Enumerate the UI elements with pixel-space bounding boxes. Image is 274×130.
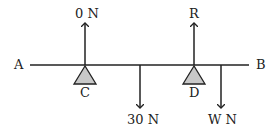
label-d: D xyxy=(189,86,199,99)
beam-diagram xyxy=(0,0,274,130)
force-label-r: R xyxy=(189,7,199,20)
support-d xyxy=(183,66,205,84)
support-c xyxy=(74,66,96,84)
label-b: B xyxy=(256,58,266,71)
force-label-0n: 0 N xyxy=(75,7,99,20)
label-c: C xyxy=(80,86,90,99)
force-label-wn: W N xyxy=(208,113,237,126)
label-a: A xyxy=(14,58,23,71)
force-label-30n: 30 N xyxy=(127,113,159,126)
